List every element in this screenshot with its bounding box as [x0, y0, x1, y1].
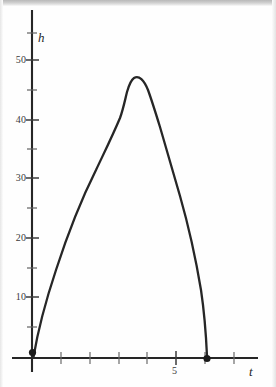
parabola-plot	[0, 0, 276, 387]
y-tick-label-10: 10	[8, 291, 26, 302]
y-tick-label-50: 50	[8, 54, 26, 65]
y-tick-label-20: 20	[8, 232, 26, 243]
x-axis-label-t: t	[249, 364, 253, 380]
root-point-left	[29, 349, 36, 356]
x-tick-label-5: 5	[172, 365, 177, 376]
y-tick-label-30: 30	[8, 172, 26, 183]
root-point-right	[203, 355, 210, 362]
y-tick-label-40: 40	[8, 114, 26, 125]
curve-h-of-t	[34, 77, 208, 357]
y-axis-label-h: h	[38, 30, 45, 46]
figure-canvas: 50 40 30 20 10 5 h t	[0, 0, 276, 387]
